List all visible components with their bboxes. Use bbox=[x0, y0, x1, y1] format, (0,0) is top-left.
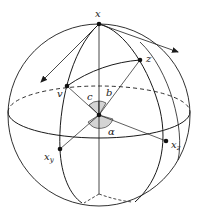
point-x bbox=[97, 22, 102, 27]
point-xz bbox=[164, 139, 169, 144]
label-alpha: α bbox=[108, 126, 115, 137]
label-z: z bbox=[145, 53, 152, 64]
label-xy: xy bbox=[44, 151, 55, 164]
point-xy bbox=[58, 147, 63, 152]
label-x: x bbox=[95, 8, 101, 19]
label-c: c bbox=[87, 91, 93, 102]
meridian-xz bbox=[99, 24, 163, 202]
point-z bbox=[138, 58, 143, 63]
hidden-bottom-right bbox=[99, 194, 132, 202]
hidden-bottom-left bbox=[84, 194, 99, 203]
radius-xy bbox=[60, 115, 99, 149]
label-b: b bbox=[106, 87, 112, 98]
radius-v bbox=[67, 86, 99, 115]
label-v: v bbox=[57, 88, 63, 99]
label-xz-sub: z bbox=[176, 144, 181, 152]
sphere-diagram: x z v c b α xy xz bbox=[0, 0, 201, 216]
label-xy-sub: y bbox=[49, 156, 55, 164]
point-v bbox=[65, 84, 70, 89]
tangent-arrow-right bbox=[99, 24, 178, 52]
label-xz: xz bbox=[171, 139, 181, 152]
meridian-xy bbox=[60, 24, 99, 203]
angle-c-sector bbox=[89, 101, 99, 115]
angle-b-sector bbox=[99, 101, 106, 115]
point-center bbox=[97, 113, 102, 118]
arc-v-z bbox=[67, 60, 140, 86]
